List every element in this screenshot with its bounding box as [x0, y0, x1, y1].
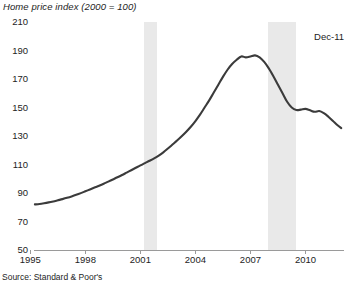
- y-tick-label: 210: [2, 16, 28, 27]
- x-tick-label: 2010: [285, 254, 325, 265]
- x-tick-label: 1998: [65, 254, 105, 265]
- source-note: Source: Standard & Poor's: [2, 272, 102, 282]
- y-tick-label: 170: [2, 73, 28, 84]
- recession-band-2008: [268, 22, 296, 250]
- plot-area: [34, 22, 344, 250]
- home-price-index-chart: Home price index (2000 = 100) 2101901701…: [0, 0, 348, 283]
- x-tick-label: 2007: [230, 254, 270, 265]
- x-tick-mark: [30, 250, 31, 254]
- y-tick-label: 190: [2, 45, 28, 56]
- y-tick-label: 130: [2, 130, 28, 141]
- x-tick-label: 1995: [10, 254, 50, 265]
- y-tick-label: 90: [2, 187, 28, 198]
- x-tick-label: 2004: [175, 254, 215, 265]
- y-tick-label: 150: [2, 102, 28, 113]
- y-tick-label: 110: [2, 159, 28, 170]
- last-point-label: Dec-11: [314, 31, 344, 42]
- x-tick-label: 2001: [120, 254, 160, 265]
- chart-title: Home price index (2000 = 100): [3, 1, 137, 12]
- y-tick-label: 70: [2, 216, 28, 227]
- x-axis-line: [34, 250, 344, 251]
- recession-band-2001: [144, 22, 157, 250]
